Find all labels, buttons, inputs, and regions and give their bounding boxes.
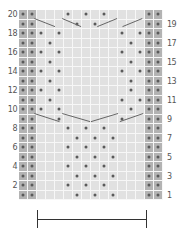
row-label-left: 8 xyxy=(3,124,17,133)
row-label-right: 9 xyxy=(167,115,181,124)
row-label-left: 10 xyxy=(3,105,17,114)
decrease-line xyxy=(62,114,90,122)
decrease-line xyxy=(62,19,81,27)
row-label-left: 6 xyxy=(3,143,17,152)
row-label-right: 19 xyxy=(167,20,181,29)
decrease-line xyxy=(120,114,143,122)
row-label-left: 2 xyxy=(3,181,17,190)
scale-bar-line xyxy=(37,219,147,220)
row-label-right: 15 xyxy=(167,58,181,67)
decrease-line xyxy=(123,19,143,27)
row-label-left: 4 xyxy=(3,162,17,171)
decrease-line xyxy=(34,114,59,122)
row-label-right: 7 xyxy=(167,134,181,143)
row-label-right: 3 xyxy=(167,172,181,181)
row-label-right: 1 xyxy=(167,191,181,200)
row-label-left: 16 xyxy=(3,48,17,57)
decrease-line xyxy=(97,19,117,27)
decrease-line xyxy=(91,114,118,122)
row-label-left: 20 xyxy=(3,10,17,19)
decrease-lines xyxy=(19,10,163,200)
repeat-scale-bar xyxy=(37,210,147,228)
row-label-left: 12 xyxy=(3,86,17,95)
row-label-left: 14 xyxy=(3,67,17,76)
row-label-right: 13 xyxy=(167,77,181,86)
row-label-right: 17 xyxy=(167,39,181,48)
row-label-right: 5 xyxy=(167,153,181,162)
row-label-left: 18 xyxy=(3,29,17,38)
decrease-line xyxy=(34,19,55,27)
scale-bar-right-tick xyxy=(146,210,147,228)
row-label-right: 11 xyxy=(167,96,181,105)
